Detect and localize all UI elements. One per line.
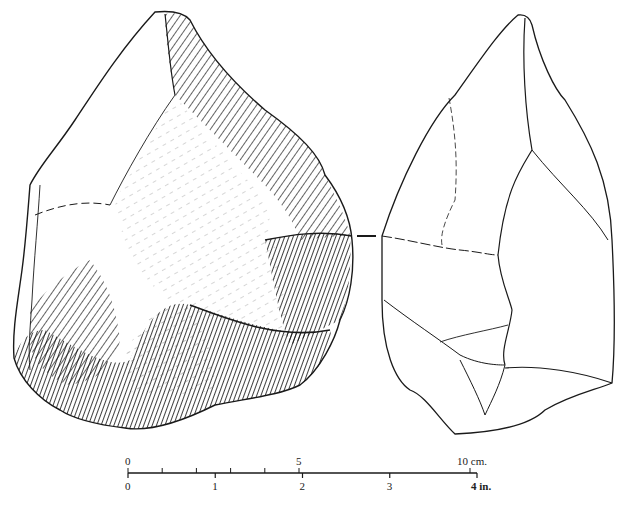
scale-label-inch: 1 bbox=[212, 481, 218, 492]
hand-axe-figure bbox=[0, 0, 627, 509]
scale-label-inch-unit: 4 in. bbox=[471, 481, 491, 492]
scale-label-cm-unit: 10 cm. bbox=[457, 456, 487, 467]
face-view-drawing bbox=[14, 11, 353, 428]
scale-label-cm: 0 bbox=[125, 456, 131, 467]
scale-bar bbox=[128, 468, 477, 478]
scale-label-cm: 5 bbox=[296, 456, 302, 467]
scale-label-inch: 0 bbox=[125, 481, 131, 492]
side-view-drawing bbox=[382, 15, 614, 434]
scale-label-inch: 3 bbox=[387, 481, 393, 492]
scale-label-inch: 2 bbox=[300, 481, 306, 492]
side-view-outline bbox=[382, 15, 614, 434]
